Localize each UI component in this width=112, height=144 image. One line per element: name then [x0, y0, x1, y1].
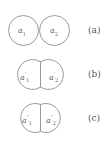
label-c: (c)	[88, 113, 100, 123]
var-c1: a″1	[22, 113, 32, 128]
var-b1: a′1	[20, 70, 29, 85]
var-a1: a1	[18, 26, 26, 39]
label-b: (b)	[88, 69, 101, 79]
var-a2: a2	[50, 26, 58, 39]
var-c2: a″2	[46, 113, 56, 128]
label-a: (a)	[88, 25, 100, 35]
var-b2: a′2	[49, 70, 58, 85]
